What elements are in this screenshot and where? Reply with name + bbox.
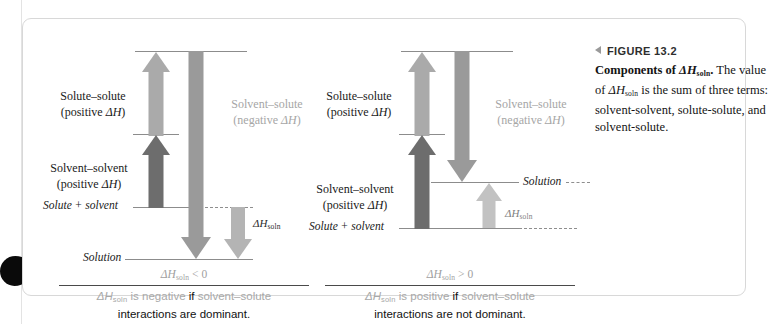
conclusion-sentence-left: ΔHsoln is negative if solvent–solute int… (59, 289, 309, 322)
level-line-solution-left (125, 259, 253, 260)
figure-caption-body: Components of ΔHsoln. The value of ΔHsol… (595, 62, 771, 135)
arrow-solvent-solute-left (181, 51, 211, 259)
state-label-solute-plus-solvent-left: Solute + solvent (43, 199, 118, 211)
label-solvent-solute-right: Solvent–solute (negative ΔH) (471, 97, 591, 128)
figure-caption: FIGURE 13.2 Components of ΔHsoln. The va… (595, 45, 771, 135)
conclusion-sentence-right: ΔHsoln is positive if solvent–solute int… (325, 289, 575, 322)
annotation-delta-h-soln-right: ΔHsoln (505, 207, 533, 221)
label-solvent-solvent-right: Solvent–solvent (positive ΔH) (303, 182, 407, 213)
level-dash-solute-solvent-right (519, 228, 577, 229)
state-label-solution-right: Solution (523, 175, 561, 187)
inequality-left: ΔHsoln < 0 (59, 268, 309, 282)
figure-number-heading: FIGURE 13.2 (595, 45, 771, 57)
arrow-delta-h-soln-right (475, 183, 503, 228)
figure-frame: Solute + solvent Solution ΔHsoln Solu (22, 18, 746, 296)
conclusion-rule-right (325, 285, 575, 286)
panel-endothermic: Solution Solute + solvent ΔHsoln Solu (313, 37, 593, 295)
label-solvent-solvent-left: Solvent–solvent (positive ΔH) (37, 161, 141, 192)
inequality-right: ΔHsoln > 0 (325, 268, 575, 282)
conclusion-right: ΔHsoln > 0 ΔHsoln is positive if solvent… (325, 268, 575, 321)
label-solvent-solute-left: Solvent–solute (negative ΔH) (207, 97, 327, 128)
label-solute-solute-left: Solute–solute (positive ΔH) (45, 89, 141, 120)
level-dash-solution-right (566, 182, 590, 183)
arrow-solute-solute-right (408, 52, 436, 136)
annotation-delta-h-soln-left: ΔHsoln (253, 217, 281, 231)
conclusion-rule-left (59, 285, 309, 286)
label-solute-solute-right: Solute–solute (positive ΔH) (311, 89, 407, 120)
arrow-solvent-solvent-left (142, 135, 170, 208)
arrow-solvent-solvent-right (408, 135, 436, 229)
conclusion-left: ΔHsoln < 0 ΔHsoln is negative if solvent… (59, 268, 309, 321)
left-triangle-icon (595, 46, 601, 54)
panel-exothermic: Solute + solvent Solution ΔHsoln Solu (47, 37, 327, 295)
arrow-delta-h-soln-left (224, 207, 252, 259)
state-label-solute-plus-solvent-right: Solute + solvent (309, 220, 384, 232)
state-label-solution-left: Solution (83, 251, 121, 263)
arrow-solute-solute-left (142, 52, 170, 136)
